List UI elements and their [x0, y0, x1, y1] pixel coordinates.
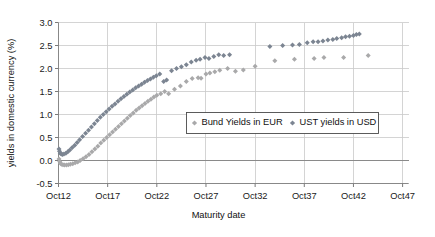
data-point — [216, 52, 221, 57]
data-point — [233, 69, 238, 74]
y-tick-label: 3.0 — [40, 18, 53, 28]
data-point — [189, 60, 194, 65]
data-point — [325, 37, 330, 42]
y-tick-label: 0.0 — [40, 156, 53, 166]
x-tick-label: Oct32 — [243, 191, 268, 201]
axis-lines — [59, 23, 409, 184]
x-tick-label: Oct17 — [95, 191, 120, 201]
data-point — [198, 57, 203, 62]
data-point — [184, 62, 189, 67]
legend-label: UST yields in USD — [300, 117, 377, 127]
data-point — [290, 43, 295, 48]
data-point — [80, 134, 85, 139]
data-point — [316, 39, 321, 44]
y-tick-label: 1.0 — [40, 110, 53, 120]
data-point — [292, 57, 297, 62]
data-point — [162, 89, 167, 94]
series-bund — [56, 53, 370, 167]
y-tick-label: 2.5 — [40, 41, 53, 51]
data-point — [203, 72, 208, 77]
data-point — [267, 44, 272, 49]
x-tick-label: Oct12 — [46, 191, 71, 201]
data-point — [334, 36, 339, 41]
data-point — [305, 40, 310, 45]
data-point — [212, 69, 217, 74]
data-point — [320, 38, 325, 43]
data-point — [190, 76, 195, 81]
data-point — [86, 128, 91, 133]
y-tick-label: 1.5 — [40, 87, 53, 97]
data-point — [343, 34, 348, 39]
data-point — [184, 79, 189, 84]
data-point — [83, 131, 88, 136]
data-point — [158, 91, 163, 96]
data-point — [347, 34, 352, 39]
data-point — [95, 118, 100, 123]
data-point — [211, 54, 216, 59]
data-point — [174, 66, 179, 71]
x-tick-label: Oct27 — [194, 191, 219, 201]
x-tick-label: Oct37 — [292, 191, 317, 201]
series-ust — [56, 32, 361, 158]
data-point — [202, 55, 207, 60]
data-point — [92, 121, 97, 126]
data-point — [169, 68, 174, 73]
data-point — [280, 43, 285, 48]
chart-legend: Bund Yields in EURUST yields in USD — [187, 113, 379, 134]
data-point — [194, 58, 199, 63]
y-tick-label: 2.0 — [40, 64, 53, 74]
data-point — [166, 91, 171, 96]
data-point — [341, 55, 346, 60]
x-tick-label: Oct42 — [341, 191, 366, 201]
y-axis-title: yields in domestic currency (%) — [6, 39, 16, 168]
data-point — [207, 71, 212, 76]
data-point — [339, 35, 344, 40]
scatter-chart: -0.50.00.51.01.52.02.53.0Oct12Oct17Oct22… — [0, 0, 435, 237]
data-point — [321, 55, 326, 60]
data-point — [227, 52, 232, 57]
y-tick-label: -0.5 — [36, 179, 52, 189]
data-point — [172, 87, 177, 92]
data-point — [221, 53, 226, 58]
x-tick-label: Oct47 — [390, 191, 415, 201]
data-point — [312, 56, 317, 61]
y-tick-label: 0.5 — [40, 133, 53, 143]
chart-canvas: -0.50.00.51.01.52.02.53.0Oct12Oct17Oct22… — [0, 0, 435, 237]
x-tick-label: Oct22 — [144, 191, 169, 201]
data-point — [366, 53, 371, 58]
data-point — [311, 39, 316, 44]
legend-label: Bund Yields in EUR — [202, 117, 283, 127]
data-point — [89, 124, 94, 129]
data-point — [206, 56, 211, 61]
data-point — [253, 64, 258, 69]
data-point — [272, 58, 277, 63]
data-point — [297, 42, 302, 47]
data-point — [330, 37, 335, 42]
data-point — [178, 83, 183, 88]
data-point — [225, 66, 230, 71]
x-axis-title: Maturity date — [192, 210, 246, 220]
